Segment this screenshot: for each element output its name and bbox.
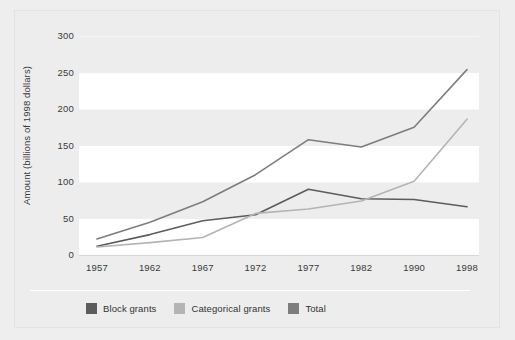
legend-item-label: Categorical grants bbox=[191, 303, 270, 314]
legend-item-label: Total bbox=[305, 303, 326, 314]
x-axis-tick-label: 1982 bbox=[336, 262, 386, 273]
series-line bbox=[97, 119, 467, 247]
y-axis-tick-labels: 300250200150100500 bbox=[28, 0, 74, 340]
plot-area bbox=[79, 36, 479, 255]
y-axis-tick-label: 0 bbox=[34, 249, 74, 260]
legend-divider bbox=[30, 290, 470, 291]
series-line bbox=[97, 189, 467, 246]
legend-swatch-categorical-grants bbox=[174, 303, 185, 314]
x-axis-tick-label: 1998 bbox=[442, 262, 492, 273]
x-axis-line bbox=[79, 255, 479, 256]
y-axis-tick-label: 300 bbox=[34, 30, 74, 41]
legend-item[interactable]: Total bbox=[288, 303, 326, 314]
x-axis-tick-label: 1957 bbox=[72, 262, 122, 273]
legend-swatch-total bbox=[288, 303, 299, 314]
chart-lines bbox=[79, 36, 479, 255]
legend-item[interactable]: Block grants bbox=[86, 303, 156, 314]
x-axis-tick-label: 1967 bbox=[178, 262, 228, 273]
x-axis-tick-label: 1977 bbox=[283, 262, 333, 273]
y-axis-tick-label: 50 bbox=[34, 213, 74, 224]
y-axis-tick-label: 100 bbox=[34, 176, 74, 187]
x-axis-tick-label: 1962 bbox=[125, 262, 175, 273]
x-axis-tick-label: 1972 bbox=[231, 262, 281, 273]
legend-item-label: Block grants bbox=[103, 303, 156, 314]
legend-item[interactable]: Categorical grants bbox=[174, 303, 270, 314]
chart-legend: Block grantsCategorical grantsTotal bbox=[86, 303, 326, 314]
y-axis-tick-label: 150 bbox=[34, 140, 74, 151]
y-axis-tick-label: 250 bbox=[34, 67, 74, 78]
chart-figure: Amount (billions of 1998 dollars) 300250… bbox=[0, 0, 515, 340]
series-line bbox=[97, 70, 467, 239]
legend-swatch-block-grants bbox=[86, 303, 97, 314]
y-axis-tick-label: 200 bbox=[34, 103, 74, 114]
x-axis-tick-label: 1990 bbox=[389, 262, 439, 273]
